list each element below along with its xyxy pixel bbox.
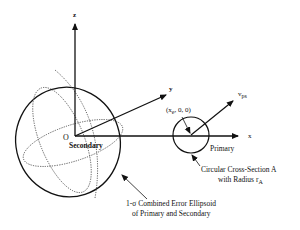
position-pointer [182, 117, 190, 133]
origin-label: O [63, 134, 69, 142]
x-axis-label: x [248, 133, 252, 140]
position-label: (xe, 0, 0) [166, 107, 191, 115]
y-axis [75, 95, 166, 136]
y-axis-label: y [169, 86, 173, 93]
secondary-label: Secondary [69, 142, 103, 150]
cross-section-label-line1: Circular Cross-Section A [201, 166, 276, 174]
velocity-label: vps [238, 91, 247, 99]
primary-label: Primary [210, 145, 234, 153]
velocity-label-subscript: ps [242, 93, 247, 99]
cross-section-radius-prefix: with Radius r [218, 175, 258, 184]
cross-section-pointer [192, 155, 200, 166]
ellipsoid-meridian-2 [55, 70, 98, 198]
cross-section-radius-subscript: A [258, 179, 262, 185]
ellipsoid-label-line2: of Primary and Secondary [132, 210, 211, 218]
position-label-suffix: , 0, 0) [175, 106, 191, 114]
diagram-canvas [0, 0, 300, 230]
cross-section-label-line2: with Radius rA [218, 176, 263, 185]
z-axis-label: z [73, 12, 76, 19]
ellipsoid-label-line1: 1-σ Combined Error Ellipsoid [126, 200, 216, 208]
ellipsoid-pointer [122, 175, 147, 199]
